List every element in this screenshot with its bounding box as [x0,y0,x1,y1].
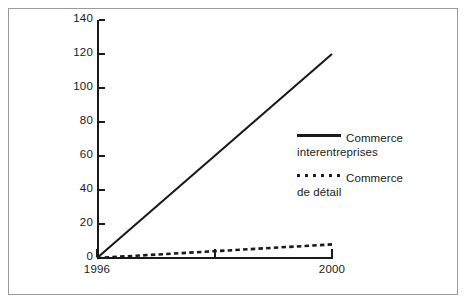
y-axis-tick-label: 40 [80,182,93,194]
y-axis-tick-label: 140 [73,12,93,24]
y-axis-tick [99,87,105,89]
y-axis-tick-label: 100 [73,80,93,92]
x-axis-tick [331,249,333,257]
legend-label-line1: Commerce [346,172,403,184]
y-axis-tick [99,19,105,21]
y-axis-tick-label: 120 [73,46,93,58]
legend-item-commerce-de-detail: Commerce de détail [297,168,447,199]
y-axis-tick-label: 20 [80,216,93,228]
y-axis-tick [99,53,105,55]
y-axis-tick-label: 80 [80,114,93,126]
x-axis-minor-tick [214,249,216,257]
chart-figure: 020406080100120140 19962000 Commerce int… [0,0,469,304]
x-axis-tick [96,249,98,257]
chart-legend: Commerce interentreprises Commerce de dé… [297,128,447,207]
legend-label-line2: interentreprises [297,146,447,159]
y-axis-tick-label: 0 [86,250,93,262]
x-axis-tick-label: 2000 [319,263,345,275]
x-axis-tick-label: 1996 [84,263,110,275]
y-axis-tick-labels: 020406080100120140 [58,0,93,304]
y-axis-tick [99,121,105,123]
legend-swatch-solid-line [297,134,341,137]
y-axis-tick [99,223,105,225]
legend-item-commerce-interentreprises: Commerce interentreprises [297,128,447,159]
y-axis-tick-label: 60 [80,148,93,160]
x-axis-line [97,257,333,259]
legend-label-line2: de détail [297,186,447,199]
y-axis-tick [99,155,105,157]
legend-swatch-dotted-line [297,174,341,177]
y-axis-tick [99,189,105,191]
legend-label-line1: Commerce [346,132,403,144]
y-axis-tick [99,257,105,259]
